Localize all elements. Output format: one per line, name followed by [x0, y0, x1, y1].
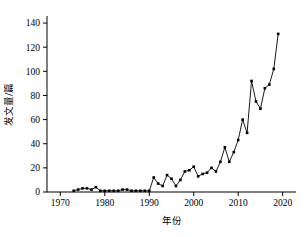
- data-point-marker: [179, 179, 182, 182]
- x-axis-title: 年份: [162, 215, 182, 226]
- data-point-marker: [188, 169, 191, 172]
- x-tick-label: 2000: [184, 198, 203, 208]
- data-point-marker: [170, 177, 173, 180]
- data-point-marker: [112, 189, 115, 192]
- data-point-marker: [219, 161, 222, 164]
- data-point-marker: [241, 118, 244, 121]
- data-point-marker: [175, 185, 178, 188]
- y-tick-label: 80: [31, 91, 41, 101]
- data-point-marker: [86, 187, 89, 190]
- data-point-marker: [277, 33, 280, 36]
- data-point-marker: [201, 173, 204, 176]
- x-axis-ticks: 197019801990200020102020: [51, 192, 293, 208]
- data-point-marker: [135, 189, 138, 192]
- data-point-marker: [272, 68, 275, 71]
- data-point-marker: [139, 189, 142, 192]
- data-point-marker: [90, 188, 93, 191]
- data-point-marker: [228, 161, 231, 164]
- data-point-marker: [72, 189, 75, 192]
- data-point-marker: [95, 186, 98, 189]
- data-point-marker: [157, 182, 160, 185]
- publication-count-line-chart: 020406080100120140 197019801990200020102…: [0, 0, 305, 237]
- data-point-marker: [104, 189, 107, 192]
- data-point-marker: [126, 188, 129, 191]
- data-point-marker: [192, 165, 195, 168]
- data-point-marker: [130, 189, 133, 192]
- y-tick-label: 140: [26, 18, 41, 28]
- y-axis-title: 发文量/篇: [3, 83, 14, 126]
- x-tick-label: 1990: [140, 198, 159, 208]
- data-point-marker: [264, 87, 267, 90]
- data-point-marker: [161, 185, 164, 188]
- data-point-marker: [250, 80, 253, 83]
- data-point-marker: [215, 170, 218, 173]
- data-point-marker: [224, 146, 227, 149]
- data-point-marker: [121, 188, 124, 191]
- y-tick-label: 60: [31, 115, 41, 125]
- data-point-marker: [108, 189, 111, 192]
- data-point-marker: [259, 107, 262, 110]
- data-point-marker: [117, 189, 120, 192]
- data-series-line: [74, 34, 279, 191]
- data-point-marker: [184, 170, 187, 173]
- y-tick-label: 40: [31, 139, 41, 149]
- data-point-marker: [255, 100, 258, 103]
- data-point-marker: [246, 132, 249, 135]
- data-point-marker: [210, 167, 213, 170]
- data-point-marker: [77, 188, 80, 191]
- x-tick-label: 1970: [51, 198, 70, 208]
- x-tick-label: 1980: [95, 198, 114, 208]
- data-point-marker: [99, 189, 102, 192]
- y-tick-label: 20: [31, 163, 41, 173]
- data-point-marker: [268, 83, 271, 86]
- data-point-marker: [232, 151, 235, 154]
- data-point-marker: [237, 139, 240, 142]
- x-tick-label: 2020: [273, 198, 292, 208]
- chart-container: 020406080100120140 197019801990200020102…: [0, 0, 305, 237]
- data-point-marker: [148, 189, 151, 192]
- data-point-marker: [81, 187, 84, 190]
- y-axis-ticks: 020406080100120140: [26, 18, 47, 197]
- data-point-marker: [152, 176, 155, 179]
- y-tick-label: 120: [26, 43, 41, 53]
- data-point-marker: [144, 189, 147, 192]
- y-tick-label: 100: [26, 67, 41, 77]
- x-tick-label: 2010: [229, 198, 248, 208]
- data-point-marker: [166, 174, 169, 177]
- data-point-marker: [206, 171, 209, 174]
- y-tick-label: 0: [35, 187, 40, 197]
- data-point-marker: [197, 175, 200, 178]
